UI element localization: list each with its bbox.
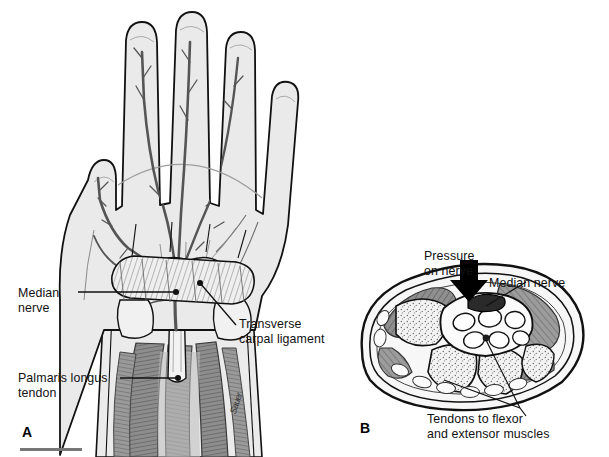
label-palmaris-longus-tendon: Palmaris longus tendon <box>18 371 108 400</box>
label-pressure-on-nerve: Pressure on nerve <box>424 249 474 278</box>
transverse-carpal-ligament-shape <box>112 256 254 304</box>
compressed-median-nerve <box>468 294 505 311</box>
label-median-nerve-a: Median nerve <box>18 286 59 315</box>
bottom-rule <box>20 448 82 451</box>
figure-carpal-tunnel: Median nerve Transverse carpal ligament … <box>0 0 609 457</box>
label-median-nerve-b: Median nerve <box>489 276 565 291</box>
label-transverse-carpal-ligament: Transverse carpal ligament <box>239 317 325 346</box>
panel-letter-a: A <box>22 424 32 440</box>
label-tendons-flexor-extensor: Tendons to flexor and extensor muscles <box>427 412 550 441</box>
carpal-tunnel-contents <box>440 293 532 356</box>
panel-letter-b: B <box>360 420 370 436</box>
